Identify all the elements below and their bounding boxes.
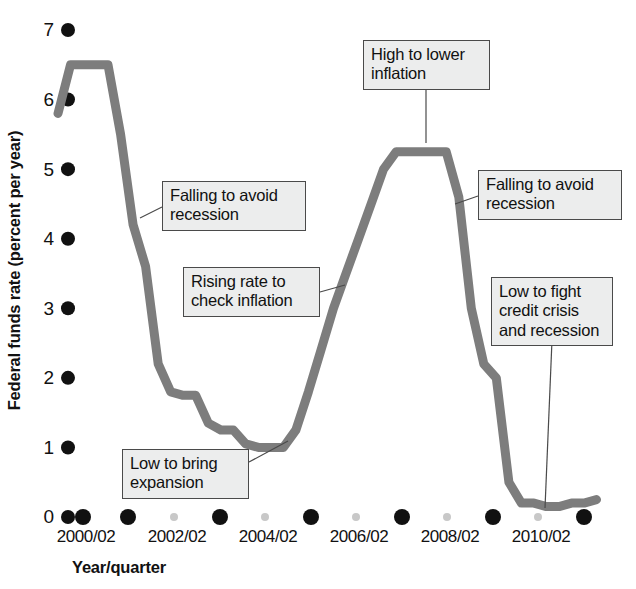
y-axis-tick-dot xyxy=(61,232,75,246)
x-axis-major-tick-dot xyxy=(485,509,501,525)
x-axis-tick-label: 2000/02 xyxy=(38,527,134,547)
y-axis-tick-label: 5 xyxy=(32,159,54,181)
annotation-low-to-bring-expansion: Low to bringexpansion xyxy=(122,449,249,499)
x-axis-major-tick-dot xyxy=(120,509,136,525)
x-axis-tick-label: 2008/02 xyxy=(402,527,498,547)
annotation-line: High to lower xyxy=(371,45,482,64)
annotation-line: check inflation xyxy=(191,291,312,310)
x-axis-major-tick-dot xyxy=(576,509,592,525)
x-axis-minor-tick-dot xyxy=(261,513,269,521)
x-axis-minor-tick-dot xyxy=(443,513,451,521)
x-axis-tick-label: 2010/02 xyxy=(493,527,589,547)
annotation-high-to-lower-inflation: High to lowerinflation xyxy=(363,40,490,90)
annotation-line: and recession xyxy=(499,321,605,340)
y-axis-tick-label: 4 xyxy=(32,228,54,250)
annotation-line: expansion xyxy=(130,473,241,492)
annotation-line: recession xyxy=(486,194,614,213)
annotation-falling-to-avoid-recession-1: Falling to avoidrecession xyxy=(162,181,306,231)
y-axis-tick-label: 0 xyxy=(32,506,54,528)
x-axis-major-tick-dot xyxy=(303,509,319,525)
annotation-leader-line xyxy=(545,340,552,508)
x-axis-tick-label: 2004/02 xyxy=(220,527,316,547)
annotation-falling-to-avoid-recession-2: Falling to avoidrecession xyxy=(478,170,622,220)
y-axis-title-container: Federal funds rate (percent per year) xyxy=(0,0,32,540)
annotation-rising-rate-to-check-inflation: Rising rate tocheck inflation xyxy=(183,267,320,317)
annotation-line: recession xyxy=(170,205,298,224)
annotation-line: Low to bring xyxy=(130,454,241,473)
y-axis-tick-label: 7 xyxy=(32,19,54,41)
x-axis-major-tick-dot xyxy=(394,509,410,525)
x-axis-title: Year/quarter xyxy=(72,558,166,577)
annotation-leader-line xyxy=(140,207,162,218)
x-axis-minor-tick-dot xyxy=(170,513,178,521)
annotation-low-to-fight-credit-crisis-and-recession: Low to fightcredit crisisand recession xyxy=(491,277,613,346)
federal-funds-rate-chart: Federal funds rate (percent per year) Ye… xyxy=(0,0,636,589)
y-axis-tick-dot xyxy=(61,440,75,454)
x-axis-minor-tick-dot xyxy=(352,513,360,521)
y-axis-tick-label: 1 xyxy=(32,437,54,459)
y-axis-tick-dot xyxy=(61,371,75,385)
y-axis-tick-dot xyxy=(61,162,75,176)
x-axis-tick-dots xyxy=(75,509,592,525)
y-axis-tick-label: 6 xyxy=(32,89,54,111)
x-axis-major-tick-dot xyxy=(212,509,228,525)
annotation-line: Low to fight xyxy=(499,282,605,301)
annotation-line: Falling to avoid xyxy=(486,175,614,194)
y-axis-tick-dot xyxy=(61,301,75,315)
x-axis-tick-label: 2002/02 xyxy=(129,527,225,547)
x-axis-tick-label: 2006/02 xyxy=(311,527,407,547)
annotation-line: inflation xyxy=(371,64,482,83)
y-axis-tick-label: 2 xyxy=(32,367,54,389)
annotation-line: Falling to avoid xyxy=(170,186,298,205)
annotation-line: credit crisis xyxy=(499,301,605,320)
annotation-line: Rising rate to xyxy=(191,272,312,291)
y-axis-tick-dot xyxy=(61,510,75,524)
y-axis-title: Federal funds rate (percent per year) xyxy=(6,130,25,410)
y-axis-tick-dot xyxy=(61,23,75,37)
x-axis-major-tick-dot xyxy=(75,509,91,525)
y-axis-tick-label: 3 xyxy=(32,298,54,320)
x-axis-minor-tick-dot xyxy=(534,513,542,521)
